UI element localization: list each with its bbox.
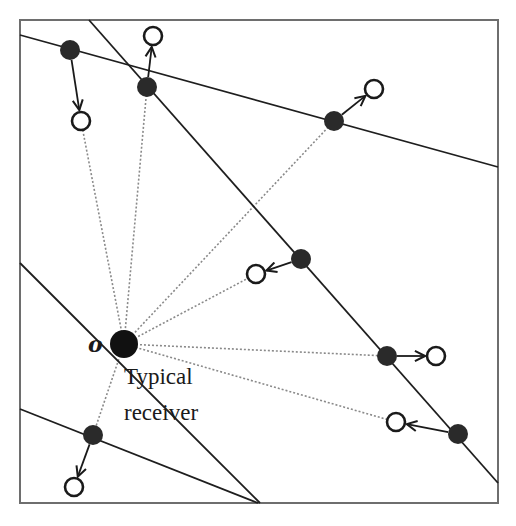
interference-link-4 [124, 274, 256, 344]
receiver-node-3 [365, 80, 383, 98]
receiver-node-6 [387, 413, 405, 431]
receiver-node-2 [144, 27, 162, 45]
interference-link-5 [124, 344, 387, 356]
road-line-1 [20, 35, 498, 167]
interference-link-7 [93, 344, 124, 435]
transmitter-node-4 [291, 249, 311, 269]
nodes [60, 27, 468, 496]
transmitter-node-6 [448, 424, 468, 444]
typical-receiver-node [110, 330, 138, 358]
typical-receiver-label-line2: receiver [124, 400, 198, 425]
interference-link-2 [124, 87, 147, 344]
interference-link-1 [81, 121, 124, 344]
link-arrow-3 [342, 96, 366, 115]
receiver-node-1 [72, 112, 90, 130]
link-arrow-2 [148, 47, 152, 77]
link-arrow-6 [407, 424, 448, 432]
transmitter-node-3 [324, 111, 344, 131]
receiver-node-5 [427, 347, 445, 365]
receiver-node-7 [65, 478, 83, 496]
transmitter-node-2 [137, 77, 157, 97]
typical-receiver-label-line1: Typical [124, 364, 193, 389]
link-arrow-4 [266, 262, 291, 270]
receiver-node-4 [247, 265, 265, 283]
interference-link-3 [124, 121, 334, 344]
network-diagram: o Typical receiver [0, 0, 516, 526]
transmitter-node-7 [83, 425, 103, 445]
link-arrow-7 [78, 444, 90, 476]
transmitter-node-5 [377, 346, 397, 366]
transmitter-node-1 [60, 40, 80, 60]
origin-label: o [88, 331, 103, 357]
link-arrow-1 [72, 60, 80, 110]
